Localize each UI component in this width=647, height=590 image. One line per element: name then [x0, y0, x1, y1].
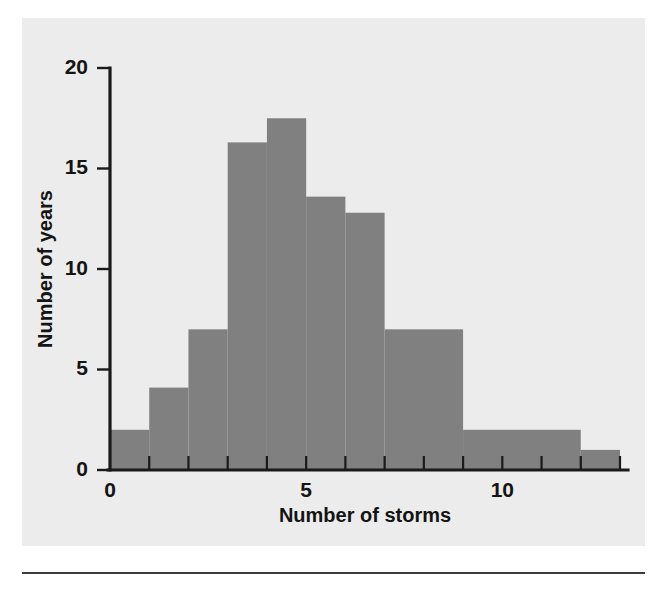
histogram-svg: 051015200510Number of stormsNumber of ye… — [22, 18, 645, 546]
x-axis-tick-label: 5 — [300, 478, 312, 501]
x-axis-tick-label: 0 — [104, 478, 116, 501]
y-axis-tick-label: 20 — [65, 55, 88, 78]
histogram-bar — [306, 197, 345, 470]
histogram-bar — [385, 329, 463, 470]
y-axis-tick-label: 5 — [76, 356, 88, 379]
bottom-divider — [22, 572, 645, 574]
y-axis-tick-label: 0 — [76, 457, 88, 480]
x-axis-tick-label: 10 — [491, 478, 514, 501]
histogram-bar — [581, 450, 620, 470]
histogram-bar — [267, 118, 306, 470]
figure-panel: 051015200510Number of stormsNumber of ye… — [22, 18, 645, 546]
histogram-bar — [188, 329, 227, 470]
histogram-plot: 051015200510Number of stormsNumber of ye… — [22, 18, 645, 546]
histogram-bar — [463, 430, 581, 470]
histogram-bar — [228, 142, 267, 470]
histogram-bar — [110, 430, 149, 470]
histogram-bar — [149, 388, 188, 470]
y-axis-title: Number of years — [34, 190, 56, 348]
x-axis-title: Number of storms — [279, 504, 451, 526]
y-axis-tick-label: 15 — [65, 155, 89, 178]
y-axis-tick-label: 10 — [65, 256, 88, 279]
histogram-bar — [345, 213, 384, 470]
